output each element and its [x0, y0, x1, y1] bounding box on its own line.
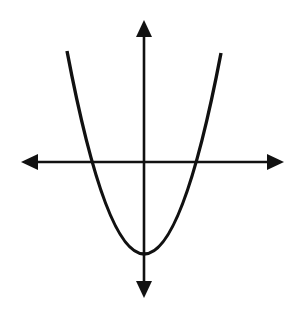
x-axis-left-arrow-icon: [21, 154, 38, 170]
y-axis-up-arrow-icon: [136, 20, 152, 37]
x-axis: [21, 154, 284, 170]
y-axis-down-arrow-icon: [136, 281, 152, 298]
graph-figure: Graph of an upward-opening parabola on c…: [0, 0, 293, 310]
x-axis-right-arrow-icon: [267, 154, 284, 170]
y-axis: [136, 20, 152, 298]
